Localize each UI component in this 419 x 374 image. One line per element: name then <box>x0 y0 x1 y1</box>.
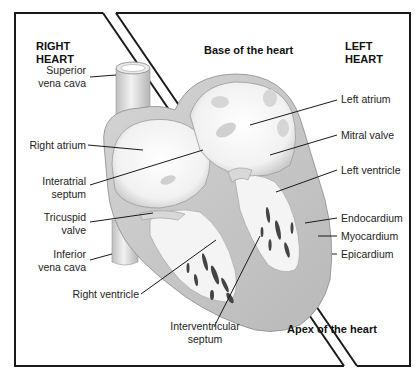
label-line: septum <box>42 188 86 201</box>
label-line: Right ventricle <box>72 288 139 301</box>
label-right-atrium: Right atrium <box>29 139 86 152</box>
right-heart-header-line1: RIGHT <box>36 40 74 53</box>
label-right-ventricle: Right ventricle <box>72 288 139 301</box>
label-mitral-valve: Mitral valve <box>341 129 394 142</box>
left-heart-header: LEFT HEART <box>345 40 383 65</box>
label-line: Superior <box>38 64 86 77</box>
label-line: Inferior <box>38 248 86 261</box>
label-interventricular-septum: Interventricular septum <box>140 320 270 345</box>
apex-of-heart-header: Apex of the heart <box>287 323 377 336</box>
label-line: Interventricular <box>140 320 270 333</box>
label-left-atrium: Left atrium <box>341 93 391 106</box>
base-of-heart-header: Base of the heart <box>204 44 293 57</box>
label-interatrial-septum: Interatrial septum <box>42 175 86 200</box>
label-line: Mitral valve <box>341 129 394 142</box>
label-line: Interatrial <box>42 175 86 188</box>
label-myocardium: Myocardium <box>341 230 398 243</box>
right-heart-header: RIGHT HEART <box>36 40 74 65</box>
leader-superior-vena-cava <box>90 75 116 77</box>
left-heart-header-line1: LEFT <box>345 40 383 53</box>
label-line: Tricuspid <box>44 211 86 224</box>
label-line: Left atrium <box>341 93 391 106</box>
label-line: Myocardium <box>341 230 398 243</box>
label-line: Epicardium <box>341 248 394 261</box>
label-line: vena cava <box>38 261 86 274</box>
label-superior-vena-cava: Superior vena cava <box>38 64 86 89</box>
label-epicardium: Epicardium <box>341 248 394 261</box>
label-line: Right atrium <box>29 139 86 152</box>
label-line: vena cava <box>38 77 86 90</box>
label-line: septum <box>140 333 270 346</box>
label-line: Endocardium <box>341 212 403 225</box>
label-line: valve <box>44 224 86 237</box>
label-tricuspid-valve: Tricuspid valve <box>44 211 86 236</box>
label-endocardium: Endocardium <box>341 212 403 225</box>
label-line: Left ventricle <box>341 164 401 177</box>
label-inferior-vena-cava: Inferior vena cava <box>38 248 86 273</box>
leader-inferior-vena-cava <box>90 254 112 260</box>
left-heart-header-line2: HEART <box>345 53 383 66</box>
label-left-ventricle: Left ventricle <box>341 164 401 177</box>
